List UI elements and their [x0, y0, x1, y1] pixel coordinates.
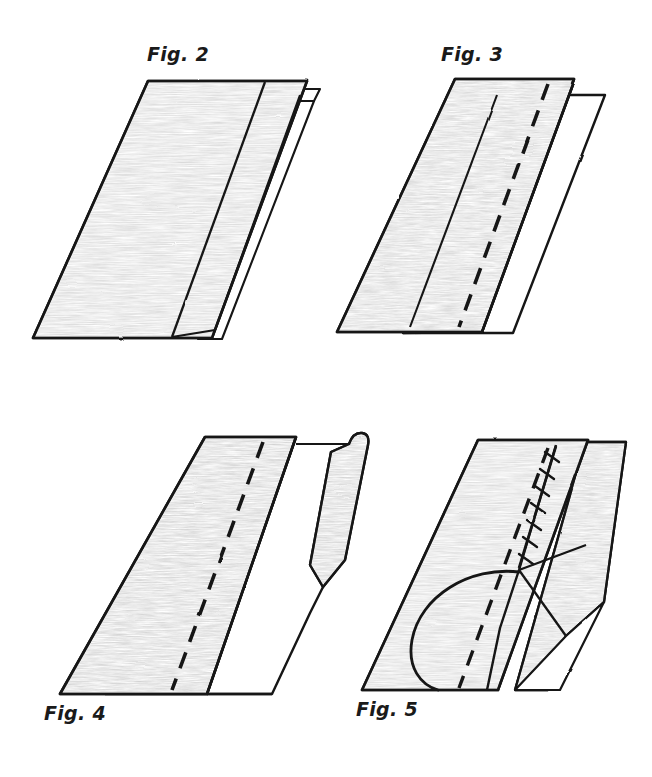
figure-5: [362, 440, 626, 690]
figure-5-caption: Fig. 5: [356, 698, 418, 720]
illustration-sheet: Fig. 2 Fig. 3 Fig. 4 Fig. 5: [0, 0, 652, 777]
fig4-lifted-flap-shading: [310, 433, 368, 587]
figure-3: [337, 79, 605, 333]
figure-4: [60, 433, 368, 694]
figure-2-caption: Fig. 2: [147, 43, 209, 65]
figure-3-caption: Fig. 3: [441, 43, 503, 65]
figure-4-caption: Fig. 4: [44, 702, 106, 724]
figures-canvas: [0, 0, 652, 777]
figure-2: [33, 81, 320, 339]
